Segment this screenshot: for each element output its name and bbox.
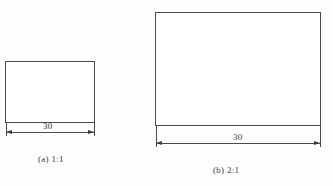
dimension-line-b — [156, 143, 320, 144]
dimension-arrow-left-b — [156, 141, 162, 145]
dimension-line-a — [6, 132, 94, 133]
dimension-value-a: 30 — [43, 122, 52, 131]
caption-panel-b: (b) 2:1 — [213, 166, 239, 175]
rectangle-scale-2to1 — [155, 12, 321, 126]
diagram-canvas: 30 (a) 1:1 30 (b) 2:1 — [0, 0, 333, 186]
caption-panel-a: (a) 1:1 — [38, 155, 64, 164]
extension-line-right-a — [94, 123, 95, 136]
extension-line-right-b — [320, 126, 321, 147]
dimension-arrow-right-a — [88, 130, 94, 134]
dimension-value-b: 30 — [233, 133, 242, 142]
dimension-arrow-right-b — [314, 141, 320, 145]
rectangle-scale-1to1 — [5, 61, 95, 123]
dimension-arrow-left-a — [6, 130, 12, 134]
